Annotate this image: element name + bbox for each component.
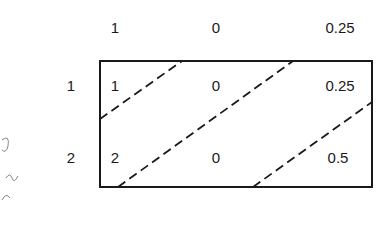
matrix-cell: 0 [212,78,220,93]
matrix-cell: 0.25 [325,78,354,93]
matrix-cell: 2 [111,150,119,165]
row-header: 1 [67,78,75,93]
row-header: 2 [67,150,75,165]
matrix-cell: 1 [111,78,119,93]
handwriting-mark [0,130,30,207]
matrix-cell: 0 [212,150,220,165]
column-header: 1 [111,20,119,35]
matrix-cell: 0.5 [328,150,349,165]
column-header: 0 [212,20,220,35]
dashed-diagonal-2 [118,61,293,187]
dashed-diagonal-3 [253,102,372,187]
column-header: 0.25 [325,20,354,35]
